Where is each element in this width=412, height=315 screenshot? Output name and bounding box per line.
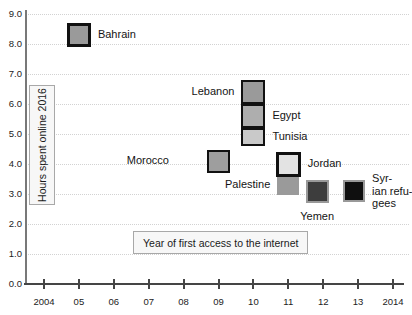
gridline [26,134,409,135]
x-axis-label-box: Year of first access to the internet [133,231,308,254]
x-tick-mark [183,279,185,289]
y-tick-label: 2.0 [0,218,22,230]
point-label-lebanon: Lebanon [192,85,235,98]
x-tick-mark [148,279,150,289]
point-label-palestine: Palestine [225,178,270,191]
x-tick-mark [392,279,394,289]
x-tick-mark [322,279,324,289]
y-tick-label: 9.0 [0,8,22,20]
marker-jordan [276,152,301,177]
x-tick-label: 10 [236,296,270,307]
x-tick-label: 12 [306,296,340,307]
x-tick-label: 07 [132,296,166,307]
gridline [26,74,409,75]
marker-morocco [207,150,230,173]
marker-yemen [306,180,329,203]
x-tick-mark [252,279,254,289]
x-tick-mark [113,279,115,289]
y-axis-line [25,10,27,285]
x-tick-mark [287,279,289,289]
marker-bahrain [67,23,91,47]
y-tick-label: 6.0 [0,98,22,110]
gridline [26,254,409,255]
y-tick-label: 8.0 [0,38,22,50]
x-tick-mark [357,279,359,289]
marker-lebanon [241,80,265,104]
point-label-jordan: Jordan [308,157,342,170]
y-tick-label: 0.0 [0,278,22,290]
y-tick-label: 4.0 [0,158,22,170]
x-tick-mark [78,279,80,289]
x-tick-label: 08 [167,296,201,307]
point-label-syrian-refugees: Syr-ian refu-gees [372,172,412,210]
x-tick-label: 13 [341,296,375,307]
marker-tunisia [241,128,265,146]
point-label-line: ian refu- [372,185,412,198]
x-axis-line [24,283,404,285]
x-tick-mark [218,279,220,289]
gridline [26,14,409,15]
marker-syrian-refugees [343,180,365,202]
y-axis-label-box: Hours spent online 2016 [29,85,55,205]
point-label-yemen: Yemen [300,210,334,223]
point-label-morocco: Morocco [127,154,169,167]
x-tick-mark [43,279,45,289]
marker-egypt [241,104,265,128]
x-tick-label: 09 [202,296,236,307]
x-axis-label: Year of first access to the internet [143,237,298,249]
y-tick-label: 3.0 [0,188,22,200]
marker-palestine [277,176,299,195]
point-label-tunisia: Tunisia [272,130,307,143]
point-label-line: Syr- [372,172,412,185]
gridline [26,224,409,225]
x-tick-label: 05 [62,296,96,307]
x-tick-label: 2004 [27,296,61,307]
x-tick-label: 11 [271,296,305,307]
point-label-line: gees [372,197,412,210]
gridline [26,104,409,105]
y-tick-label: 1.0 [0,248,22,260]
x-tick-label: 2014 [376,296,410,307]
point-label-egypt: Egypt [272,109,300,122]
point-label-bahrain: Bahrain [98,28,136,41]
y-axis-label: Hours spent online 2016 [36,88,48,202]
y-tick-label: 5.0 [0,128,22,140]
y-tick-label: 7.0 [0,68,22,80]
x-tick-label: 06 [97,296,131,307]
